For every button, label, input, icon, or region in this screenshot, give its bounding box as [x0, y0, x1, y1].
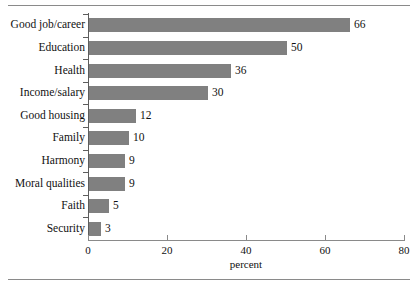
bar-value-label: 9 [129, 177, 135, 190]
y-axis-tick [83, 104, 88, 105]
figure: Good job/career66Education50Health36Inco… [0, 0, 418, 287]
y-axis-tick [83, 150, 88, 151]
y-axis-tick [83, 217, 88, 218]
x-axis-tick-label: 40 [226, 243, 266, 257]
bar-value-label: 30 [212, 86, 224, 99]
y-axis-tick [83, 59, 88, 60]
x-axis-tick [246, 235, 247, 240]
y-axis-tick [83, 82, 88, 83]
y-axis-tick [83, 37, 88, 38]
category-label: Health [54, 64, 85, 77]
bar-value-label: 36 [235, 64, 247, 77]
category-label: Good housing [20, 109, 85, 122]
category-label: Security [47, 222, 85, 235]
x-axis-tick [325, 235, 326, 240]
bar-chart-plot: Good job/career66Education50Health36Inco… [0, 0, 418, 287]
category-label: Harmony [42, 154, 85, 167]
bar [89, 64, 231, 78]
x-axis-tick [167, 235, 168, 240]
bar [89, 177, 125, 191]
bar-value-label: 12 [140, 109, 152, 122]
bar [89, 41, 287, 55]
category-label: Good job/career [11, 18, 85, 31]
x-axis-tick-label: 0 [68, 243, 108, 257]
x-axis-tick [404, 235, 405, 240]
x-axis-title: percent [206, 258, 286, 270]
category-label: Faith [61, 199, 85, 212]
bar [89, 109, 136, 123]
y-axis-tick [83, 172, 88, 173]
bar-value-label: 50 [291, 41, 303, 54]
bar [89, 154, 125, 168]
x-axis-line [88, 240, 405, 241]
category-label: Family [52, 131, 85, 144]
x-axis-tick-label: 20 [147, 243, 187, 257]
bar-value-label: 3 [105, 222, 111, 235]
x-axis-tick-label: 60 [305, 243, 345, 257]
bar [89, 222, 101, 236]
category-label: Moral qualities [15, 177, 85, 190]
bar-value-label: 5 [113, 199, 119, 212]
bar-value-label: 9 [129, 154, 135, 167]
bar [89, 199, 109, 213]
x-axis-tick-label: 80 [384, 243, 418, 257]
x-axis-tick [88, 235, 89, 240]
y-axis-tick [83, 195, 88, 196]
bar-value-label: 66 [354, 18, 366, 31]
bar [89, 86, 208, 100]
bar [89, 18, 350, 32]
bar [89, 131, 129, 145]
category-label: Education [38, 41, 85, 54]
bar-value-label: 10 [133, 131, 145, 144]
y-axis-tick [83, 127, 88, 128]
category-label: Income/salary [20, 86, 85, 99]
y-axis-tick [83, 14, 88, 15]
